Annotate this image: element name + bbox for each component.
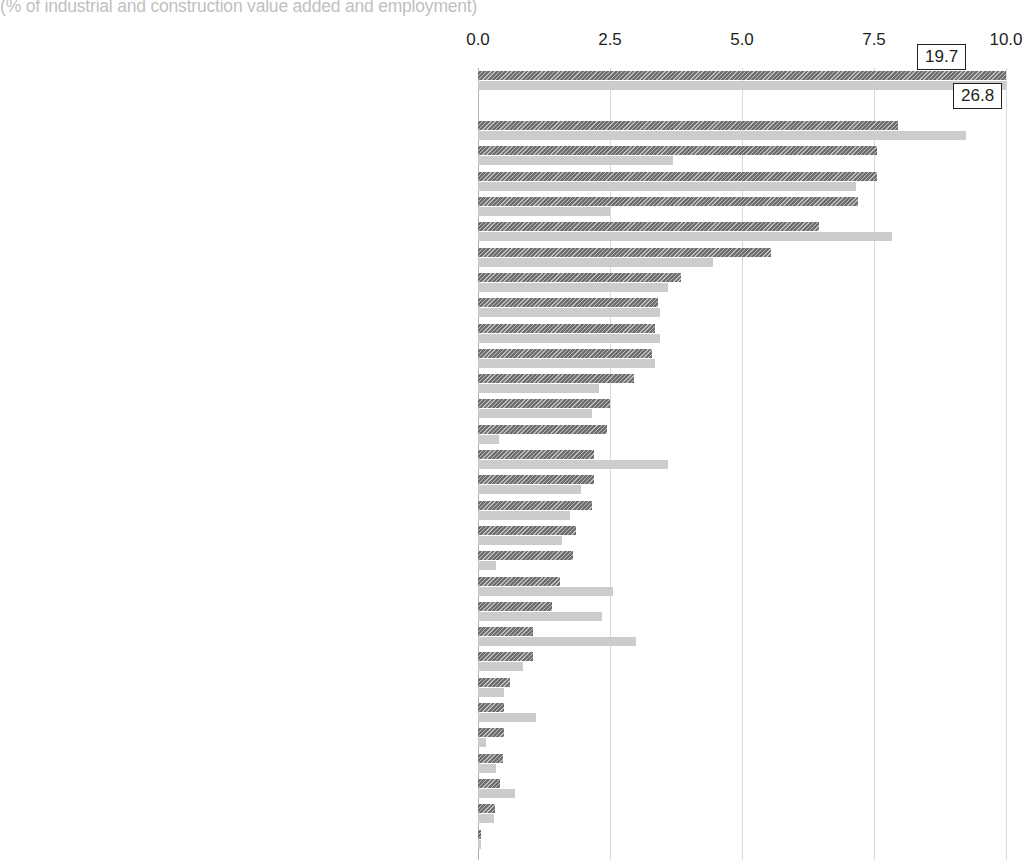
chart-row: Machinery & equipment n.e.c. <box>478 169 1006 194</box>
bar-value-added <box>478 728 504 737</box>
bar-employment <box>478 789 515 798</box>
bar-value-added <box>478 450 594 459</box>
chart-row: Tanning, dressing of leather; manufactur… <box>478 701 1006 726</box>
chart-row: Wearing apparel; dressing; dyeing of fur… <box>478 625 1006 650</box>
bar-group <box>478 68 1006 93</box>
chart-row: Other non-metallic mineral products <box>478 346 1006 371</box>
chart-row: SELECTED INDUSTRIAL ACTIVITIES <box>478 93 1006 118</box>
bar-employment <box>478 258 713 267</box>
bar-group <box>478 726 1006 751</box>
bar-value-added <box>478 754 503 763</box>
x-tick-label: 10.0 <box>989 30 1022 50</box>
bar-group <box>478 321 1006 346</box>
plot-area: CONSTRUCTION (2)19.726.8SELECTED INDUSTR… <box>478 68 1006 860</box>
bar-group <box>478 270 1006 295</box>
gridline <box>1006 68 1007 860</box>
bar-group <box>478 625 1006 650</box>
bar-employment <box>478 81 1006 90</box>
bar-employment <box>478 207 610 216</box>
chart-row: Mining of metal ores (6) <box>478 827 1006 852</box>
bar-employment <box>478 713 536 722</box>
bar-value-added <box>478 374 634 383</box>
chart-row: Motor vehicles, trailers & semi-trailers… <box>478 245 1006 270</box>
bar-employment <box>478 662 523 671</box>
x-tick-label: 0.0 <box>466 30 490 50</box>
chart-row: Collection, purification & distribution … <box>478 650 1006 675</box>
bar-value-added <box>478 779 500 788</box>
chart-row: Pulp, paper & paper products (3) <box>478 523 1006 548</box>
chart-row: Food products & beverages <box>478 119 1006 144</box>
bar-employment <box>478 283 668 292</box>
bar-value-added <box>478 172 877 181</box>
chart-row: Chemicals & chemical products <box>478 144 1006 169</box>
bar-group <box>478 448 1006 473</box>
bar-value-added <box>478 197 858 206</box>
bar-group <box>478 169 1006 194</box>
bar-employment <box>478 359 655 368</box>
bar-group <box>478 523 1006 548</box>
bar-group <box>478 549 1006 574</box>
chart-row: Fabricated metal products (3) <box>478 220 1006 245</box>
chart-row: Textiles (3) <box>478 599 1006 624</box>
bar-employment <box>478 688 504 697</box>
chart-row: Mining of coal & lignite; extraction of … <box>478 776 1006 801</box>
bar-employment <box>478 814 494 823</box>
bar-value-added <box>478 298 658 307</box>
bar-group <box>478 220 1006 245</box>
bar-employment <box>478 334 660 343</box>
bar-employment <box>478 738 486 747</box>
chart-row: Basic metals (3) <box>478 372 1006 397</box>
x-tick-label: 7.5 <box>862 30 886 50</box>
bar-group <box>478 397 1006 422</box>
bar-value-added <box>478 501 592 510</box>
bar-group <box>478 245 1006 270</box>
bar-employment <box>478 384 599 393</box>
bar-value-added <box>478 146 877 155</box>
chart-row: Wood products (3) <box>478 574 1006 599</box>
chart-row: Tobacco products (5) <box>478 726 1006 751</box>
bar-value-added <box>478 248 771 257</box>
chart-row: Other mining & quarrying <box>478 675 1006 700</box>
bar-group <box>478 372 1006 397</box>
chart-row: Radio, TV & communication equipment <box>478 498 1006 523</box>
chart-row: Coke, refined petroleum products and nuc… <box>478 549 1006 574</box>
bar-value-added <box>478 425 607 434</box>
bar-value-added <box>478 324 655 333</box>
bar-value-added <box>478 703 504 712</box>
bar-employment <box>478 764 496 773</box>
bar-group <box>478 144 1006 169</box>
bar-group <box>478 776 1006 801</box>
bar-group <box>478 599 1006 624</box>
bar-group <box>478 650 1006 675</box>
value-callout-value-added: 19.7 <box>917 44 966 70</box>
bar-value-added <box>478 121 898 130</box>
bar-group <box>478 296 1006 321</box>
x-tick-label: 5.0 <box>730 30 754 50</box>
bar-employment <box>478 409 592 418</box>
chart-row: Electricity, gas, steam & hot water supp… <box>478 195 1006 220</box>
chart-row: Rubber & plastic products (3) <box>478 296 1006 321</box>
bar-value-added <box>478 678 510 687</box>
bar-employment <box>478 435 499 444</box>
bar-group <box>478 498 1006 523</box>
bar-employment <box>478 156 673 165</box>
bar-value-added <box>478 804 495 813</box>
bar-value-added <box>478 399 610 408</box>
chart-row: Recycling (3) <box>478 802 1006 827</box>
value-callout-employment: 26.8 <box>953 83 1002 109</box>
bar-employment <box>478 612 602 621</box>
chart-row: Furniture; manufacturing n.e.c. (3) <box>478 448 1006 473</box>
bar-employment <box>478 587 613 596</box>
chart-row: Medical, precision & optical instruments… <box>478 397 1006 422</box>
bar-employment <box>478 561 496 570</box>
bar-employment <box>478 460 668 469</box>
bar-employment <box>478 182 856 191</box>
bar-value-added <box>478 475 594 484</box>
bar-group <box>478 93 1006 118</box>
bar-employment <box>478 840 481 849</box>
bar-employment <box>478 485 581 494</box>
bar-group <box>478 195 1006 220</box>
bar-employment <box>478 131 966 140</box>
chart-row: Publishing, printing, reproduction of re… <box>478 270 1006 295</box>
x-tick-label: 2.5 <box>598 30 622 50</box>
